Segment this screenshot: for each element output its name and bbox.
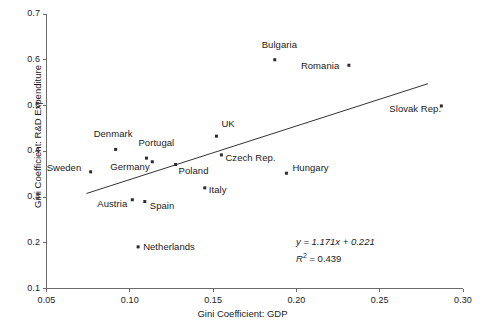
data-point-marker <box>174 163 177 166</box>
y-tick-label: 0.7 <box>8 8 40 18</box>
x-axis-title: Gini Coefficient: GDP <box>0 308 485 319</box>
data-point-marker <box>151 160 154 163</box>
r-squared-value: = 0.439 <box>309 253 341 264</box>
data-point-marker <box>137 245 140 248</box>
data-point-label: Hungary <box>292 162 328 173</box>
x-tick-label: 0.15 <box>193 295 233 305</box>
data-point-marker <box>347 64 350 67</box>
data-point-label: Sweden <box>47 162 82 173</box>
data-point-label: UK <box>221 118 234 129</box>
data-point-marker <box>143 200 146 203</box>
x-tick-label: 0.30 <box>443 295 483 305</box>
data-point-marker <box>203 186 206 189</box>
r-squared-symbol: R <box>296 253 303 264</box>
y-tick-label: 0.2 <box>8 237 40 247</box>
x-tick-label: 0.20 <box>276 295 316 305</box>
regression-equation: y = 1.171x + 0.221 <box>296 236 375 247</box>
data-point-label: Romania <box>301 60 339 71</box>
data-point-marker <box>215 135 218 138</box>
y-axis-title: Gini Coefficient: R&D Expenditure <box>32 37 43 237</box>
data-point-marker <box>273 58 276 61</box>
data-point-label: Portugal <box>138 137 174 148</box>
y-tick-label: 0.1 <box>8 283 40 293</box>
data-point-label: Spain <box>150 200 175 211</box>
data-point-label: Bulgaria <box>262 39 297 50</box>
data-point-label: Austria <box>97 198 127 209</box>
data-point-label: Slovak Rep. <box>389 103 441 114</box>
data-point-label: Denmark <box>94 128 133 139</box>
data-point-marker <box>131 198 134 201</box>
data-point-marker <box>285 172 288 175</box>
r-squared-exponent: 2 <box>303 252 307 259</box>
data-point-marker <box>145 157 148 160</box>
data-point-marker <box>114 148 117 151</box>
data-point-label: Czech Rep. <box>225 152 275 163</box>
data-point-label: Germany <box>110 161 149 172</box>
data-point-label: Netherlands <box>143 241 195 252</box>
data-point-label: Italy <box>209 184 227 195</box>
x-tick-label: 0.10 <box>110 295 150 305</box>
x-tick-label: 0.05 <box>27 295 67 305</box>
equation-text: y = 1.171x + 0.221 <box>296 236 375 247</box>
scatter-plot-figure: 0.10.20.30.40.50.60.70.050.100.150.200.2… <box>0 0 485 330</box>
data-point-marker <box>89 170 92 173</box>
x-tick-label: 0.25 <box>360 295 400 305</box>
data-point-marker <box>220 153 223 156</box>
data-point-label: Poland <box>179 165 209 176</box>
r-squared-annotation: R2 = 0.439 <box>296 252 341 264</box>
